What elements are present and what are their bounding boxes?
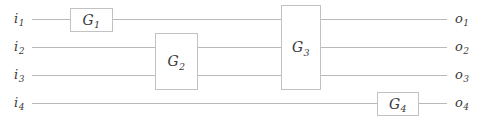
input-label-4: i4 [14,96,24,109]
output-label-3: o3 [455,68,469,81]
output-label-4: o4 [455,96,469,109]
gate-1-label: G1 [82,13,99,27]
input-label-3: i3 [14,68,24,81]
input-label-subscript-3: 3 [19,74,25,84]
gate-3-label-text: G [292,39,303,55]
gate-1-label-text: G [82,12,93,28]
gate-boxes-group [71,6,419,116]
output-label-subscript-4: 4 [463,102,469,112]
input-label-text-3: i [14,67,18,82]
output-label-subscript-3: 3 [463,74,469,84]
gate-2-label-text: G [167,53,178,69]
output-label-text-1: o [455,11,463,26]
input-label-text-2: i [14,39,18,54]
output-label-1: o1 [455,12,469,25]
circuit-canvas [0,0,482,122]
output-label-text-4: o [455,95,463,110]
gate-3-label: G3 [292,40,309,54]
gate-1-label-subscript: 1 [94,19,100,30]
wires-group [32,20,447,104]
input-label-text-1: i [14,11,18,26]
output-label-text-2: o [455,39,463,54]
input-label-2: i2 [14,40,24,53]
output-label-subscript-2: 2 [463,46,469,56]
output-label-subscript-1: 1 [463,18,469,28]
input-label-subscript-1: 1 [19,18,25,28]
gate-3-label-subscript: 3 [304,47,310,58]
circuit-diagram: i1o1i2o2i3o3i4o4G1G2G3G4 [0,0,482,122]
input-label-1: i1 [14,12,24,25]
gate-2-label-subscript: 2 [179,61,185,72]
gate-4-label-subscript: 4 [401,103,407,114]
gate-4-label: G4 [389,97,406,111]
output-label-text-3: o [455,67,463,82]
output-label-2: o2 [455,40,469,53]
input-label-subscript-2: 2 [19,46,25,56]
input-label-text-4: i [14,95,18,110]
input-label-subscript-4: 4 [19,102,25,112]
gate-2-label: G2 [167,54,184,68]
gate-4-label-text: G [389,96,400,112]
